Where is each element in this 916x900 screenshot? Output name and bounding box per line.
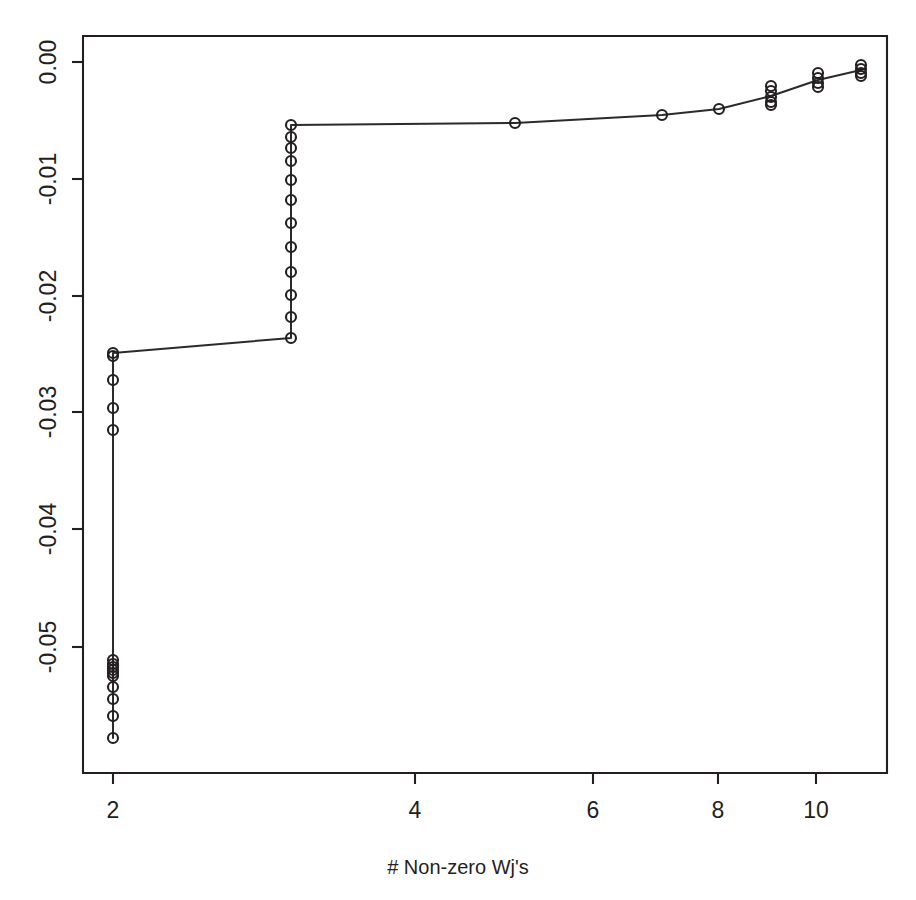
y-tick-label: -0.03	[35, 386, 61, 438]
y-tick-label: -0.04	[35, 503, 61, 556]
y-tick-label: -0.05	[35, 621, 61, 673]
chart-container: 0.00-0.01-0.02-0.03-0.04-0.05 246810 # N…	[0, 0, 916, 900]
y-tick-label: 0.00	[35, 40, 61, 85]
x-tick-label: 2	[107, 797, 120, 823]
x-tick-label: 8	[712, 797, 725, 823]
scatter-line-plot: 0.00-0.01-0.02-0.03-0.04-0.05 246810 # N…	[0, 0, 916, 900]
plot-background	[0, 0, 916, 900]
x-axis-title: # Non-zero Wj's	[387, 856, 529, 878]
y-tick-label: -0.01	[35, 153, 61, 205]
x-tick-label: 6	[587, 797, 600, 823]
x-tick-label: 4	[409, 797, 422, 823]
y-tick-label: -0.02	[35, 270, 61, 322]
x-tick-label: 10	[803, 797, 829, 823]
